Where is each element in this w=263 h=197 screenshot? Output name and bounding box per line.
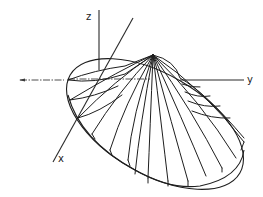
z-axis-label: z: [86, 11, 91, 22]
x-axis: [53, 18, 133, 162]
diagram-canvas: z y x: [0, 0, 263, 197]
x-axis-label: x: [58, 153, 64, 164]
y-axis-label: y: [247, 74, 253, 85]
right-side-arcs: [182, 84, 230, 118]
surface-diagram: z y x: [0, 0, 263, 197]
